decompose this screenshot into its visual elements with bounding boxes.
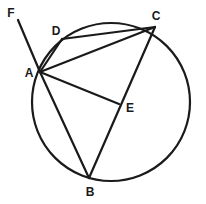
point-label-B: B <box>86 186 95 198</box>
circle-geometry-figure <box>0 0 206 204</box>
point-label-A: A <box>25 67 34 79</box>
point-label-E: E <box>126 102 134 114</box>
point-label-C: C <box>152 10 161 22</box>
point-label-D: D <box>52 25 61 37</box>
segment-FA <box>18 20 40 72</box>
point-label-F: F <box>7 7 14 19</box>
diagram-canvas: F D C A E B <box>0 0 206 204</box>
